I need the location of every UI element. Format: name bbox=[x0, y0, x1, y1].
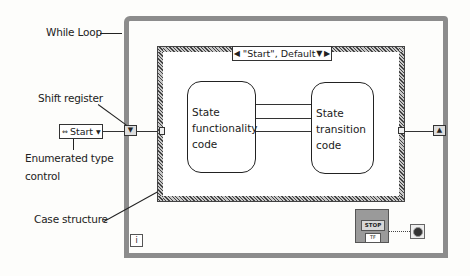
while-loop-callout-line bbox=[100, 33, 122, 34]
case-to-shift-register-wire[interactable] bbox=[405, 131, 434, 132]
enum-to-shift-register-wire[interactable] bbox=[103, 131, 124, 132]
triangle-up-icon: ▲ bbox=[437, 127, 442, 134]
enum-label-line-2: control bbox=[25, 170, 60, 182]
shift-register-to-case-wire[interactable] bbox=[137, 131, 158, 132]
spin-arrows-icon[interactable]: ⇔ bbox=[60, 128, 70, 136]
tf-label: TF bbox=[365, 233, 381, 243]
enum-label-line-1: Enumerated type bbox=[25, 152, 113, 164]
enum-control[interactable]: ⇔ Start ▼ bbox=[59, 124, 103, 139]
state-functionality-box: State functionality code bbox=[187, 81, 256, 173]
case-selector[interactable]: ◀ "Start", Default ▼ ▶ bbox=[232, 46, 332, 61]
stop-wire[interactable] bbox=[389, 231, 410, 232]
enum-value: Start bbox=[70, 126, 93, 137]
data-wire-2[interactable] bbox=[256, 118, 311, 119]
case-selector-value: "Start", Default bbox=[241, 48, 316, 59]
case-structure-label: Case structure bbox=[34, 213, 108, 225]
prev-case-arrow-icon[interactable]: ◀ bbox=[233, 49, 241, 58]
iteration-i-icon: i bbox=[135, 236, 137, 245]
state-transition-box: State transition code bbox=[311, 82, 374, 174]
stop-condition-icon[interactable] bbox=[410, 224, 425, 239]
data-wire-3[interactable] bbox=[256, 131, 311, 132]
next-case-arrow-icon[interactable]: ▶ bbox=[323, 49, 331, 58]
state-transition-line-3: code bbox=[316, 137, 373, 153]
left-shift-register[interactable]: ▼ bbox=[124, 125, 137, 136]
shift-register-label: Shift register bbox=[38, 92, 103, 104]
state-functionality-line-3: code bbox=[192, 136, 255, 152]
case-selector-tunnel[interactable] bbox=[159, 127, 165, 135]
data-wire-1[interactable] bbox=[256, 104, 311, 105]
shift-register-callout-line bbox=[98, 104, 127, 126]
state-functionality-line-1: State bbox=[192, 104, 255, 120]
while-loop-label: While Loop bbox=[46, 26, 102, 38]
state-functionality-line-2: functionality bbox=[192, 120, 255, 136]
iteration-terminal[interactable]: i bbox=[130, 234, 143, 247]
enum-callout-line bbox=[73, 139, 74, 150]
chevron-down-icon[interactable]: ▼ bbox=[96, 128, 101, 135]
output-tunnel[interactable] bbox=[398, 127, 405, 134]
stop-button-icon: STOP bbox=[361, 220, 385, 231]
state-transition-line-1: State bbox=[316, 105, 373, 121]
state-transition-line-2: transition bbox=[316, 121, 373, 137]
triangle-down-icon: ▼ bbox=[128, 127, 133, 134]
chevron-down-icon[interactable]: ▼ bbox=[315, 49, 323, 58]
right-shift-register[interactable]: ▲ bbox=[433, 125, 446, 136]
stop-terminal[interactable]: STOP TF bbox=[355, 209, 389, 243]
